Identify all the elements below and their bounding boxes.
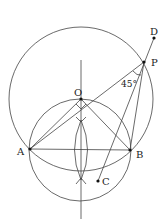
line-dc bbox=[98, 38, 154, 181]
label-b: B bbox=[136, 149, 143, 160]
segment-ap bbox=[30, 62, 144, 149]
angle-label: 45° bbox=[121, 79, 137, 89]
label-d: D bbox=[150, 26, 158, 37]
label-p: P bbox=[151, 57, 158, 68]
geometry-diagram: O A B P D C 45° bbox=[0, 0, 163, 219]
segment-ab bbox=[30, 149, 130, 150]
segment-ao bbox=[30, 99, 81, 149]
point-c bbox=[96, 179, 99, 182]
point-a bbox=[28, 147, 31, 150]
point-p bbox=[142, 60, 145, 63]
label-c: C bbox=[102, 176, 110, 187]
label-a: A bbox=[16, 146, 25, 157]
label-o: O bbox=[74, 87, 82, 98]
point-b bbox=[128, 148, 131, 151]
segment-ob bbox=[81, 99, 130, 150]
